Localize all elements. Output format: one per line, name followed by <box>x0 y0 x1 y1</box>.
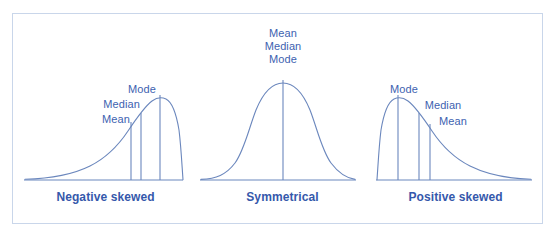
annotation-mean-positive: Mean <box>428 115 478 128</box>
annotation-mode-positive: Mode <box>382 83 426 96</box>
caption-symmetrical: Symmetrical <box>200 190 365 204</box>
skewness-figure: Mode Median Mean Mean Median Mode Mode M… <box>0 0 557 238</box>
curve-symmetrical <box>201 83 355 179</box>
annotation-median-symmetrical: Median <box>243 40 323 53</box>
caption-negative-skewed: Negative skewed <box>23 190 188 204</box>
annotation-stack-symmetrical: Mean Median Mode <box>243 27 323 66</box>
annotation-mean-symmetrical: Mean <box>243 27 323 40</box>
panel-symmetrical-graphics <box>200 80 356 180</box>
annotation-median-negative: Median <box>78 98 140 111</box>
annotation-mean-negative: Mean <box>78 113 130 126</box>
caption-positive-skewed: Positive skewed <box>373 190 538 204</box>
annotation-median-positive: Median <box>414 99 472 112</box>
annotation-mode-symmetrical: Mode <box>243 53 323 66</box>
annotation-mode-negative: Mode <box>117 83 167 96</box>
